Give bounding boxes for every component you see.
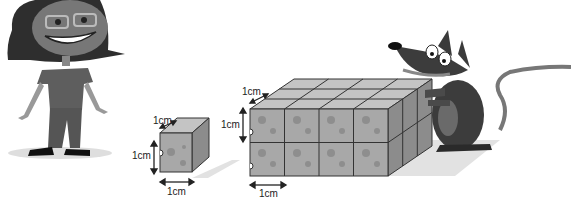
large-block-width-label: 1cm — [259, 188, 278, 199]
large-block-depth-label: 1cm — [242, 86, 261, 97]
illustration-canvas — [0, 0, 571, 206]
small-cube-height-label: 1cm — [132, 150, 151, 161]
girl-character — [8, 0, 126, 159]
small-cube-depth-label: 1cm — [153, 115, 172, 126]
large-block-height-label: 1cm — [221, 119, 240, 130]
small-cube-width-label: 1cm — [167, 186, 186, 197]
